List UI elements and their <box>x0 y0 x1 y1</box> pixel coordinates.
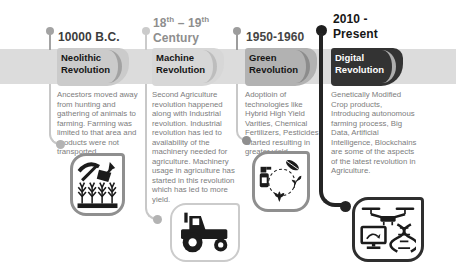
drone-dna-monitor-icon <box>360 204 416 255</box>
connector-machine <box>145 84 157 220</box>
crop-cycle-icon <box>258 157 304 206</box>
card-swoosh <box>296 50 310 83</box>
card-swoosh <box>203 50 217 83</box>
connector-end-dot <box>56 140 65 149</box>
description-neolithic: Ancestors moved away from hunting and ga… <box>57 90 139 157</box>
timeline-stem-green <box>236 34 238 50</box>
icon-box-neolithic <box>70 153 125 216</box>
description-green: Adoptioin of technologies like Hybrid Hi… <box>245 90 325 157</box>
connector-neolithic <box>49 84 60 145</box>
icon-box-digital <box>352 197 424 262</box>
connector-end-dot <box>242 136 251 145</box>
date-neolithic: 10000 B.C. <box>58 30 138 45</box>
timeline-stem-machine <box>145 34 147 50</box>
timeline-stem-neolithic <box>49 34 51 50</box>
icon-box-machine <box>170 203 240 262</box>
farming-tools-wheat-icon <box>76 160 119 210</box>
connector-green <box>236 84 246 141</box>
date-green: 1950-1960 <box>246 30 326 45</box>
card-green-revolution: Green Revolution <box>245 48 317 86</box>
description-machine: Second Agriculture revolution happened a… <box>152 90 238 204</box>
date-machine: 18th – 19thCentury <box>153 12 227 46</box>
tractor-icon <box>176 211 234 254</box>
connector-end-dot <box>153 215 162 224</box>
connector-digital <box>319 33 345 207</box>
card-swoosh <box>108 50 122 83</box>
connector-end-dot <box>340 201 351 212</box>
card-machine-revolution: Machine Revolution <box>152 48 224 86</box>
card-swoosh <box>382 50 396 83</box>
card-neolithic-revolution: Neolithic Revolution <box>57 48 129 86</box>
icon-box-green <box>252 151 310 212</box>
agriculture-revolutions-timeline: 10000 B.C. 18th – 19thCentury 1950-1960 … <box>0 0 456 272</box>
